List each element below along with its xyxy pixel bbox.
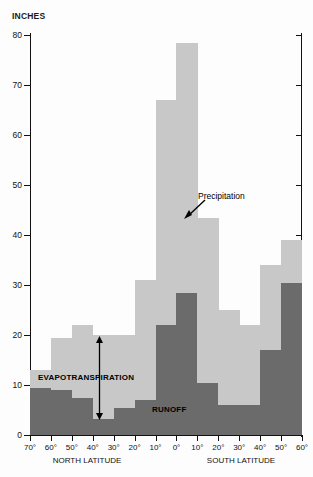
y-axis-title: INCHES xyxy=(12,11,45,21)
bar-runoff xyxy=(30,388,51,436)
bar-runoff xyxy=(72,398,93,436)
x-axis-line xyxy=(29,435,303,436)
x-tick xyxy=(302,435,303,441)
y-tick-label: 30 xyxy=(0,280,22,290)
x-tick-label: 60° xyxy=(289,443,313,452)
evapotranspiration-label: EVAPOTRANSPIRATION xyxy=(38,373,134,382)
x-tick xyxy=(30,435,31,441)
bar-runoff xyxy=(197,383,218,436)
x-axis-group-north: NORTH LATITUDE xyxy=(32,456,142,465)
precipitation-arrow-icon xyxy=(182,198,206,220)
x-tick xyxy=(156,435,157,441)
y-tick-label: 20 xyxy=(0,330,22,340)
bar-runoff xyxy=(156,325,177,435)
x-tick xyxy=(51,435,52,441)
evapotranspiration-range-arrow-icon xyxy=(95,336,104,420)
y-tick-label: 80 xyxy=(0,30,22,40)
x-tick xyxy=(239,435,240,441)
x-tick xyxy=(176,435,177,441)
x-tick xyxy=(135,435,136,441)
x-tick xyxy=(72,435,73,441)
bar-runoff xyxy=(218,405,239,435)
x-axis-group-south: SOUTH LATITUDE xyxy=(186,456,296,465)
bar-runoff xyxy=(260,350,281,435)
bar-runoff xyxy=(114,408,135,436)
bar-runoff xyxy=(51,390,72,435)
x-tick xyxy=(93,435,94,441)
x-tick xyxy=(114,435,115,441)
bar-runoff xyxy=(239,405,260,435)
runoff-label: RUNOFF xyxy=(152,405,187,414)
x-tick xyxy=(281,435,282,441)
y-tick-label: 0 xyxy=(0,430,22,440)
y-tick-label: 50 xyxy=(0,180,22,190)
y-tick-label: 10 xyxy=(0,380,22,390)
bar-runoff xyxy=(281,283,302,436)
y-tick-label: 70 xyxy=(0,80,22,90)
x-tick xyxy=(197,435,198,441)
y-tick-label: 60 xyxy=(0,130,22,140)
bar-runoff xyxy=(93,419,114,436)
chart-figure: INCHES 01020304050607080 70°60°50°40°30°… xyxy=(0,0,313,477)
x-tick xyxy=(218,435,219,441)
y-tick-label: 40 xyxy=(0,230,22,240)
x-tick xyxy=(260,435,261,441)
